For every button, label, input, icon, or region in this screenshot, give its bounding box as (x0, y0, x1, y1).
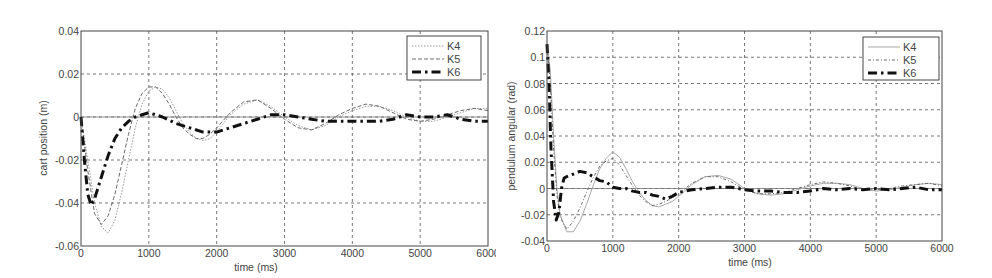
legend-label-k5: K5 (447, 53, 460, 65)
y-tick-label: 0.04 (59, 25, 80, 37)
y-tick-label: 0 (539, 183, 545, 195)
legend-label-k4: K4 (447, 40, 460, 52)
y-tick-label: -0.04 (55, 197, 79, 209)
cart-position-chart: 0.040.020-0.02-0.04-0.06 010002000300040… (0, 0, 496, 278)
x-tick-label: 6000 (930, 242, 954, 254)
legend: K4K5K6 (863, 37, 939, 80)
y-tick-labels: 0.120.10.080.060.040.020-0.02-0.04 (521, 25, 545, 247)
legend: K4K5K6 (407, 36, 481, 80)
x-tick-labels: 0100020003000400050006000 (544, 242, 954, 254)
x-tick-label: 0 (544, 242, 550, 254)
x-tick-label: 0 (78, 247, 84, 259)
legend-label-k5: K5 (903, 54, 916, 66)
x-tick-label: 1000 (137, 247, 161, 259)
y-tick-label: -0.02 (521, 209, 545, 221)
x-tick-label: 4000 (341, 247, 365, 259)
legend-label-k4: K4 (903, 41, 916, 53)
x-tick-label: 3000 (733, 242, 757, 254)
y-tick-label: 0.06 (525, 104, 546, 116)
y-axis-label: pendulum angular (rad) (505, 81, 517, 190)
y-tick-label: 0 (73, 111, 79, 123)
y-tick-label: 0.02 (525, 156, 546, 168)
x-tick-label: 5000 (408, 247, 432, 259)
x-axis-label: time (ms) (728, 256, 772, 268)
x-tick-label: 2000 (205, 247, 229, 259)
y-tick-label: 0.12 (525, 25, 546, 37)
y-tick-label: 0.02 (59, 68, 80, 80)
x-tick-label: 2000 (667, 242, 691, 254)
y-tick-label: -0.02 (55, 154, 79, 166)
x-tick-label: 1000 (601, 242, 625, 254)
pendulum-angle-chart: 0.120.10.080.060.040.020-0.02-0.04 01000… (496, 0, 992, 278)
legend-label-k6: K6 (903, 67, 916, 79)
series-k5-line (81, 87, 488, 225)
x-tick-labels: 0100020003000400050006000 (78, 247, 496, 259)
y-tick-label: -0.06 (55, 240, 79, 252)
legend-label-k6: K6 (447, 66, 460, 78)
y-tick-label: -0.04 (521, 235, 545, 247)
x-tick-label: 6000 (476, 247, 496, 259)
x-tick-label: 5000 (864, 242, 888, 254)
x-tick-label: 3000 (273, 247, 297, 259)
x-axis-label: time (ms) (234, 261, 278, 273)
y-tick-label: 0.08 (525, 78, 546, 90)
y-axis-label: cart position (m) (37, 100, 49, 175)
x-tick-label: 4000 (799, 242, 823, 254)
y-tick-label: 0.04 (525, 130, 546, 142)
y-tick-labels: 0.040.020-0.02-0.04-0.06 (55, 25, 79, 252)
y-tick-label: 0.1 (530, 51, 545, 63)
